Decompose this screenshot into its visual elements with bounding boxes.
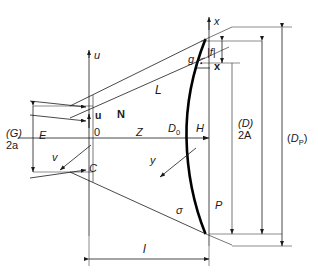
G-2a-dimension-label: (G) 2a — [6, 128, 22, 152]
G-line: (G) — [6, 127, 22, 139]
v-vector-label: v — [52, 152, 58, 163]
u-vector-label: u — [95, 110, 101, 121]
2A-line: 2A — [238, 129, 251, 141]
figure-canvas: u x u N 0 E Z L g |f| x v C y D0 H σ P l… — [0, 0, 318, 276]
origin-label: 0 — [94, 127, 100, 138]
central-ray-L — [70, 59, 203, 118]
Z-label: Z — [136, 127, 143, 138]
D-2A-dimension-label: (D) 2A — [238, 118, 253, 142]
incoming-ray-middle — [30, 115, 86, 121]
D0-base: D — [168, 122, 176, 134]
u-axis-label: u — [94, 50, 100, 61]
y-vector-label: y — [150, 155, 156, 166]
x-vector-label: x — [214, 61, 220, 72]
lower-edge-ray-extension — [206, 234, 232, 245]
v-vector-arrow — [60, 145, 91, 170]
L-label: L — [155, 84, 162, 96]
f-magnitude-label: |f| — [207, 47, 215, 58]
D0-subscript: 0 — [176, 128, 180, 137]
DP-base: D — [291, 132, 299, 144]
DP-dimension-label: (DP) — [287, 133, 307, 147]
E-label: E — [39, 130, 46, 141]
N-vector-label: N — [117, 109, 125, 120]
H-label: H — [196, 123, 204, 134]
DP-subscript: P — [299, 138, 304, 147]
y-vector-arrow — [160, 148, 196, 177]
lower-edge-ray — [70, 172, 206, 234]
D-line: (D) — [238, 117, 253, 129]
upper-edge-ray — [70, 39, 206, 106]
D0-label: D0 — [168, 123, 180, 137]
x-axis-label: x — [214, 16, 220, 27]
C-label: C — [89, 163, 97, 174]
2a-line: 2a — [6, 139, 18, 151]
sigma-label: σ — [176, 205, 183, 216]
upper-edge-ray-extension — [206, 27, 232, 39]
incoming-ray-bottom — [30, 170, 86, 178]
P-label: P — [215, 200, 222, 211]
l-length-label: l — [143, 243, 146, 255]
diagram-svg — [0, 0, 318, 276]
g-angle-label: g — [188, 54, 194, 65]
